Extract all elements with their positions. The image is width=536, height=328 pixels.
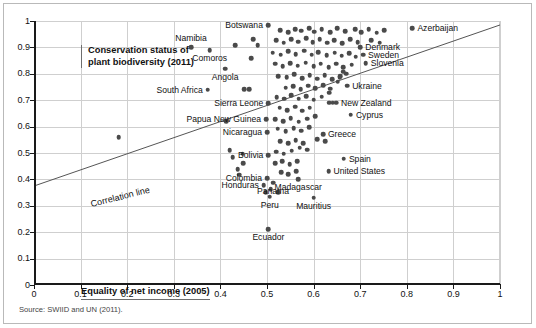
data-point: [311, 97, 316, 102]
data-point: [366, 27, 371, 32]
x-tick-label: 0.7: [354, 289, 367, 300]
y-tick-mark: [30, 206, 35, 207]
point-label-namibia: Namibia: [175, 34, 207, 43]
data-point-sweden: [361, 52, 366, 57]
data-point-south-africa: [206, 87, 211, 92]
data-point: [282, 97, 287, 102]
data-point: [307, 125, 312, 130]
data-point: [340, 41, 345, 46]
data-point: [291, 126, 296, 131]
y-tick-mark: [30, 153, 35, 154]
data-point: [324, 53, 329, 58]
y-tick-mark: [30, 100, 35, 101]
data-point: [335, 26, 340, 31]
data-point-slovenia: [363, 61, 368, 66]
data-point: [281, 151, 286, 156]
data-point: [315, 76, 320, 81]
data-point: [274, 95, 279, 100]
y-tick-label: 0.5: [17, 149, 30, 158]
data-point: [300, 76, 305, 81]
data-point: [339, 54, 344, 59]
data-point: [294, 52, 299, 57]
data-point: [328, 30, 333, 35]
point-label-new-zealand: New Zealand: [341, 98, 392, 107]
point-label-honduras: Honduras: [221, 181, 258, 190]
data-point: [312, 29, 317, 34]
data-point: [292, 72, 297, 77]
x-tick-label: 0.5: [261, 289, 274, 300]
y-tick-label: 0.6: [17, 122, 30, 131]
data-point: [308, 73, 313, 78]
data-point: [294, 138, 299, 143]
data-point: [298, 87, 303, 92]
data-point: [275, 126, 280, 131]
point-label-peru: Peru: [261, 201, 279, 210]
data-point: [343, 29, 348, 34]
point-label-ecuador: Ecuador: [252, 233, 284, 242]
data-point: [347, 51, 352, 56]
point-label-ukraine: Ukraine: [352, 81, 382, 90]
data-point: [283, 129, 288, 134]
data-point: [278, 52, 283, 57]
data-point: [315, 137, 320, 142]
data-point: [247, 87, 252, 92]
y-tick-label: 0.1: [17, 254, 30, 263]
x-tick-label: 0.2: [121, 289, 134, 300]
data-point: [286, 172, 291, 177]
point-label-slovenia: Slovenia: [371, 59, 404, 68]
data-point: [281, 119, 286, 124]
data-point: [308, 105, 313, 110]
point-label-angola: Angola: [212, 73, 239, 82]
data-point: [286, 30, 291, 35]
data-point: [295, 159, 300, 164]
data-point: [251, 37, 256, 42]
data-point-colombia: [265, 176, 270, 181]
data-point: [327, 91, 332, 96]
y-axis-tick-labels: 00.10.20.30.40.50.60.70.80.91: [6, 21, 30, 285]
data-point: [322, 73, 327, 78]
data-point-sierra-leone: [266, 101, 271, 106]
point-label-mauritius: Mauritius: [296, 202, 331, 211]
y-tick-mark: [30, 127, 35, 128]
point-label-nicaragua: Nicaragua: [223, 128, 262, 137]
data-point: [235, 167, 240, 172]
data-point: [284, 75, 289, 80]
data-point-nicaragua: [265, 130, 270, 135]
data-point: [334, 61, 339, 66]
data-point-new-zealand: [334, 101, 339, 106]
data-point: [299, 128, 304, 133]
data-point: [301, 141, 306, 146]
data-point: [296, 39, 301, 44]
data-point: [305, 148, 310, 153]
y-tick-mark: [30, 179, 35, 180]
data-point: [318, 61, 323, 66]
data-point: [283, 85, 288, 90]
y-tick-label: 0.7: [17, 96, 30, 105]
x-tick-label: 0.1: [74, 289, 87, 300]
data-point: [332, 50, 337, 55]
data-point-mauritius: [311, 196, 316, 201]
data-point: [291, 84, 296, 89]
plot-area: BotswanaAzerbaijanNamibiaComorosDenmarkS…: [34, 21, 500, 285]
data-point: [274, 149, 279, 154]
data-point: [273, 61, 278, 66]
data-point: [273, 161, 278, 166]
x-tick-label: 0.6: [307, 289, 320, 300]
data-point-bolivia: [266, 153, 271, 158]
point-label-botswana: Botswana: [225, 20, 263, 29]
y-tick-mark: [30, 47, 35, 48]
data-point-angola: [223, 66, 228, 71]
data-point: [278, 28, 283, 33]
y-tick-label: 0.4: [17, 175, 30, 184]
data-point: [286, 49, 291, 54]
data-point: [306, 83, 311, 88]
data-point: [341, 69, 346, 74]
data-point: [294, 169, 299, 174]
point-label-comoros: Comoros: [192, 54, 227, 63]
data-point: [278, 139, 283, 144]
data-point: [305, 116, 310, 121]
x-tick-label: 0.8: [401, 289, 414, 300]
data-point: [382, 28, 387, 33]
y-tick-label: 0.8: [17, 69, 30, 78]
data-point: [313, 86, 318, 91]
